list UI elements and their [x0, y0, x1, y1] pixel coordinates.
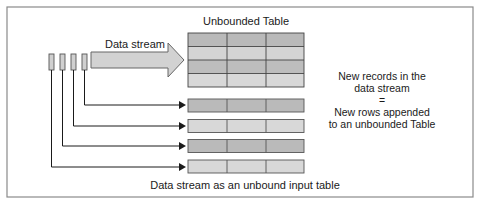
appended-row-1: [188, 99, 304, 112]
stream-record-1: [49, 54, 54, 70]
unbounded-table: [188, 33, 304, 87]
data-stream-label: Data stream: [105, 38, 165, 50]
explanation-line-2: data stream: [354, 82, 410, 94]
stream-record-3: [71, 54, 76, 70]
stream-table-diagram: Data stream Unbounded Table: [0, 0, 477, 208]
stream-record-2: [60, 54, 65, 70]
table-row: [188, 60, 304, 74]
appended-row-2: [188, 120, 304, 133]
diagram-caption: Data stream as an unbound input table: [150, 179, 340, 191]
explanation-equals: =: [379, 94, 385, 106]
stream-record-4: [82, 54, 87, 70]
unbounded-table-title: Unbounded Table: [203, 15, 289, 27]
appended-row-4: [188, 160, 304, 173]
table-row: [188, 33, 304, 47]
appended-row-3: [188, 140, 304, 153]
explanation-line-1: New records in the: [338, 70, 426, 82]
explanation-line-3: New rows appended: [334, 106, 430, 118]
explanation-line-4: to an unbounded Table: [329, 118, 436, 130]
table-row: [188, 47, 304, 61]
table-row: [188, 74, 304, 88]
